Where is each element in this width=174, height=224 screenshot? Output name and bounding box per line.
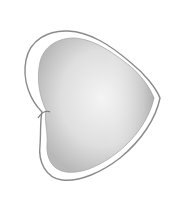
heart-right-shade xyxy=(38,38,154,172)
heart-drawing xyxy=(0,0,174,224)
